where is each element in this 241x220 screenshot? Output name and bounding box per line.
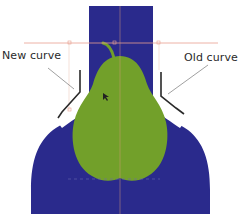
illustration-canvas: [0, 0, 241, 220]
old-curve-label: Old curve: [184, 51, 238, 64]
old-curve-leader: [168, 65, 208, 94]
anchor-point: [157, 41, 160, 44]
anchor-point: [68, 41, 71, 44]
new-curve-leader: [48, 68, 74, 89]
new-curve-label: New curve: [2, 49, 61, 62]
